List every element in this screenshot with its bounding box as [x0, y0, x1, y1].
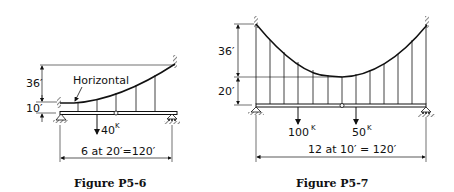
- annotation-leader: [75, 87, 82, 101]
- dim-offset: 10′: [26, 102, 43, 115]
- dim-sag: 36′: [218, 45, 235, 58]
- load-label-1: 100: [288, 126, 309, 139]
- roller-support-right: [164, 114, 180, 124]
- figure-caption: Figure P5-6: [74, 177, 147, 190]
- hinge: [114, 111, 118, 115]
- pin-support-left: [53, 114, 68, 123]
- hangers: [256, 24, 426, 104]
- hinge: [340, 104, 344, 108]
- dim-span: 6 at 20′=120′: [81, 145, 156, 158]
- roller-support-right: [418, 107, 435, 117]
- figure-caption: Figure P5-7: [296, 177, 368, 190]
- load-unit-1: K: [311, 124, 316, 132]
- dim-sag: 36′: [26, 77, 43, 90]
- load-unit-2: K: [367, 124, 372, 132]
- right-wall-anchor: [173, 55, 177, 68]
- pin-support-left: [248, 107, 264, 115]
- figure-p5-7: 100 K 50 K 36′ 20′ 12 at 10′ = 120′ Figu…: [218, 16, 435, 190]
- horizontal-annotation: Horizontal: [73, 74, 129, 87]
- load-label: 40: [101, 124, 115, 137]
- cable: [256, 24, 427, 77]
- dim-offset: 20′: [218, 85, 235, 98]
- load-unit: K: [115, 122, 120, 130]
- load-label-2: 50: [352, 126, 366, 139]
- dim-span: 12 at 10′ = 120′: [308, 143, 397, 156]
- stiffening-beam: [60, 112, 177, 115]
- figure-p5-6: 40 K Horizontal 36′ 10′ 6 at 20′=120′ Fi…: [26, 55, 180, 190]
